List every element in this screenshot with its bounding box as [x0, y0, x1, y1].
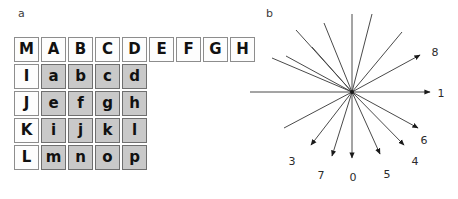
- grid-cell-B[interactable]: B: [68, 37, 93, 62]
- grid-cell-K[interactable]: K: [14, 118, 39, 143]
- arrow-origin-dot: [350, 90, 354, 94]
- grid-cell-l[interactable]: l: [122, 118, 147, 143]
- grid-row: MABCDEFGH: [14, 37, 257, 62]
- arrow-tail-8: [284, 92, 352, 128]
- grid-cell-a[interactable]: a: [41, 64, 66, 89]
- grid-cell-J[interactable]: J: [14, 91, 39, 116]
- arrow-4[interactable]: [352, 92, 404, 145]
- grid-cell-C[interactable]: C: [95, 37, 120, 62]
- figure-root: a b MABCDEFGHIabcdJefghKijklLmnop 013456…: [0, 0, 458, 199]
- arrow-tail-4: [312, 47, 352, 92]
- arrow-label-0: 0: [350, 172, 357, 183]
- arrow-tail-6: [286, 56, 352, 92]
- arrow-label-1: 1: [438, 88, 445, 99]
- arrow-label-6: 6: [421, 135, 428, 146]
- arrow-label-7: 7: [318, 170, 325, 181]
- arrow-label-3: 3: [289, 156, 296, 167]
- letter-grid: MABCDEFGHIabcdJefghKijklLmnop: [14, 37, 257, 172]
- panel-label-a: a: [18, 8, 25, 19]
- grid-cell-M[interactable]: M: [14, 37, 39, 62]
- grid-cell-i[interactable]: i: [41, 118, 66, 143]
- grid-cell-o[interactable]: o: [95, 145, 120, 170]
- grid-cell-F[interactable]: F: [176, 37, 201, 62]
- grid-cell-I[interactable]: I: [14, 64, 39, 89]
- arrow-8[interactable]: [352, 55, 420, 92]
- grid-cell-j[interactable]: j: [68, 118, 93, 143]
- grid-cell-b[interactable]: b: [68, 64, 93, 89]
- grid-cell-m[interactable]: m: [41, 145, 66, 170]
- grid-cell-A[interactable]: A: [41, 37, 66, 62]
- grid-row: Lmnop: [14, 145, 257, 170]
- grid-cell-e[interactable]: e: [41, 91, 66, 116]
- arrow-6[interactable]: [352, 92, 418, 128]
- grid-cell-h[interactable]: h: [122, 91, 147, 116]
- arrow-5[interactable]: [352, 92, 380, 154]
- grid-row: Iabcd: [14, 64, 257, 89]
- arrow-7[interactable]: [332, 92, 352, 156]
- grid-cell-n[interactable]: n: [68, 145, 93, 170]
- radial-arrow-diagram: 01345678: [232, 0, 458, 199]
- grid-cell-g[interactable]: g: [95, 91, 120, 116]
- grid-cell-E[interactable]: E: [149, 37, 174, 62]
- grid-cell-G[interactable]: G: [203, 37, 228, 62]
- arrow-3[interactable]: [311, 92, 352, 145]
- grid-row: Kijkl: [14, 118, 257, 143]
- arrow-diagram-svg: [232, 0, 458, 199]
- arrow-label-4: 4: [412, 156, 419, 167]
- grid-cell-k[interactable]: k: [95, 118, 120, 143]
- grid-cell-f[interactable]: f: [68, 91, 93, 116]
- grid-cell-c[interactable]: c: [95, 64, 120, 89]
- arrow-label-8: 8: [432, 47, 439, 58]
- grid-row: Jefgh: [14, 91, 257, 116]
- grid-cell-D[interactable]: D: [122, 37, 147, 62]
- arrow-label-5: 5: [384, 169, 391, 180]
- grid-cell-d[interactable]: d: [122, 64, 147, 89]
- grid-cell-L[interactable]: L: [14, 145, 39, 170]
- grid-cell-p[interactable]: p: [122, 145, 147, 170]
